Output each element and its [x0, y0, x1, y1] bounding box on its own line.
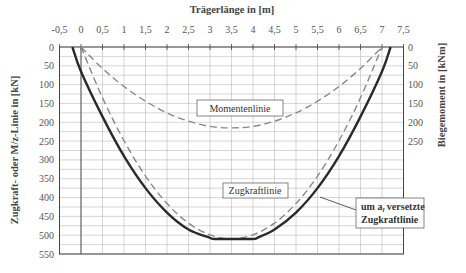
y-tick: 0 — [49, 42, 54, 53]
x-tick: 2,5 — [182, 24, 195, 35]
x-tick: 7 — [380, 24, 385, 35]
y-tick: 300 — [39, 154, 54, 165]
y2-tick: 0 — [408, 42, 413, 53]
x-tick: 5,5 — [311, 24, 324, 35]
momentenlinie-label: Momentenlinie — [197, 100, 283, 116]
x-tick: 5 — [294, 24, 299, 35]
y-tick: 250 — [39, 136, 54, 147]
y2-tick-labels: 050100150200250 — [408, 42, 423, 147]
x-tick: 1,5 — [139, 24, 152, 35]
y2-tick: 100 — [408, 79, 423, 90]
y-tick: 50 — [44, 60, 54, 71]
zugkraftlinie-label: Zugkraftlinie — [223, 183, 288, 198]
y-tick: 450 — [39, 211, 54, 222]
zugkraftlinie-label-text: Zugkraftlinie — [229, 185, 282, 196]
versetzte-zugkraftlinie-label: um al versetzte Zugkraftlinie — [320, 197, 425, 228]
y-tick: 200 — [39, 117, 54, 128]
y2-tick: 200 — [408, 117, 423, 128]
y-tick: 550 — [39, 249, 54, 260]
versetzte-line2: Zugkraftlinie — [361, 214, 419, 225]
x-tick: 6 — [337, 24, 342, 35]
y2-axis-title: Biegemoment in [kNm] — [436, 43, 447, 147]
x-tick: 2 — [165, 24, 170, 35]
x-tick: 4,5 — [268, 24, 281, 35]
x-tick: 1 — [122, 24, 127, 35]
y2-tick: 50 — [408, 60, 418, 71]
y2-tick: 250 — [408, 136, 423, 147]
y-tick: 150 — [39, 98, 54, 109]
y-tick: 400 — [39, 192, 54, 203]
y2-tick: 150 — [408, 98, 423, 109]
y-tick-labels: 050100150200250300350400450500550 — [39, 42, 54, 260]
momentenlinie-label-text: Momentenlinie — [209, 103, 271, 114]
x-tick: 3 — [208, 24, 213, 35]
x-tick: 6,5 — [354, 24, 367, 35]
y-tick: 350 — [39, 173, 54, 184]
x-tick-labels: -0,500,511,522,533,544,555,566,577,5 — [52, 24, 410, 35]
x-tick: 4 — [251, 24, 256, 35]
x-tick: 0 — [79, 24, 84, 35]
y-tick: 500 — [39, 230, 54, 241]
chart: -0,500,511,522,533,544,555,566,577,5 050… — [0, 0, 466, 273]
x-axis-title: Trägerlänge in [m] — [190, 4, 274, 15]
y-tick: 100 — [39, 79, 54, 90]
x-tick: 0,5 — [96, 24, 109, 35]
y-axis-title: Zugkraft- oder M/z-Linie in [kN] — [9, 76, 20, 225]
x-tick: 7,5 — [397, 24, 410, 35]
x-tick: 3,5 — [225, 24, 238, 35]
x-tick: -0,5 — [52, 24, 68, 35]
